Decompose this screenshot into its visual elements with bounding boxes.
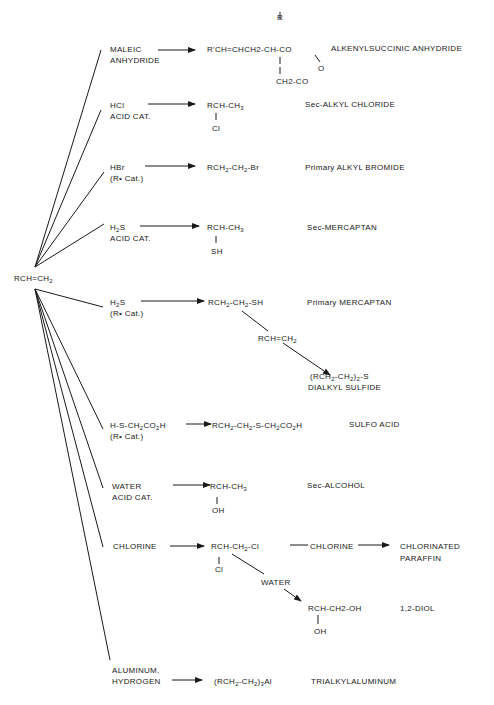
arrow-diol — [284, 589, 301, 601]
p: RCH-CH — [211, 542, 244, 551]
product-primary-mercaptan: RCH2-CH2-SH — [208, 297, 263, 311]
product-maleic-main: R'CH=CHCH2-CH-CO — [207, 44, 292, 55]
reaction-lines — [0, 0, 494, 705]
p: RCH — [208, 298, 226, 307]
product-maleic-o: O — [318, 63, 325, 74]
product-sulfo-acid: RCH2-CH2-S-CH2CO2H — [212, 420, 302, 434]
p: -Cl — [248, 542, 259, 551]
p: S — [120, 298, 126, 307]
p: -S — [360, 372, 369, 381]
name-diol: 1,2-DIOL — [400, 603, 435, 614]
name-chlorinated-1: CHLORINATED — [400, 541, 460, 552]
p: -CH — [234, 421, 249, 430]
p: -CH — [239, 677, 254, 686]
name-sec-mercaptan: Sec-MERCAPTAN — [307, 222, 377, 233]
reagent-hbr-2: (R• Cat.) — [110, 173, 144, 184]
branch-line-maleic — [35, 50, 101, 267]
p: H-S-CH — [110, 421, 140, 430]
product-hcl-sub: 3 — [240, 105, 244, 111]
name-dialkyl-sulfide: DIALKYL SULFIDE — [308, 382, 381, 393]
branch-line-hcl — [35, 110, 101, 267]
product-h2s-bottom: SH — [211, 246, 223, 257]
branch-line-hbr — [35, 172, 104, 267]
product-h2s-acid: RCH-CH3 — [207, 222, 244, 236]
name-sulfo-acid: SULFO ACID — [349, 419, 400, 430]
p: -CH — [229, 163, 244, 172]
p: RCH-CH — [210, 482, 243, 491]
center-label: RCH=CH — [14, 274, 49, 283]
branch-line-h2s-radical — [35, 289, 103, 307]
branch-line-sulfide-upper — [242, 311, 268, 331]
product-dichloride: RCH-CH2-Cl — [211, 541, 259, 555]
product-hbr: RCH2-CH2-Br — [207, 162, 259, 176]
p: 3 — [243, 486, 247, 492]
reagent-hcl-1: HCl — [110, 100, 124, 111]
product-dichloride-cl: Cl — [215, 564, 223, 575]
product-diol: RCH-CH2-OH — [308, 603, 362, 614]
p: RCH — [212, 421, 230, 430]
p: Al — [264, 677, 272, 686]
branch-line-h2s-acid — [35, 224, 104, 267]
reagent-aluminum-2: HYDROGEN — [112, 676, 161, 687]
product-hcl-main: RCH-CH — [207, 101, 240, 110]
p: 2 — [293, 338, 297, 344]
p: CO — [143, 421, 156, 430]
reagent-branch-olefin: RCH=CH2 — [258, 333, 297, 347]
p: -S-CH — [253, 421, 277, 430]
p: RCH-CH — [207, 223, 240, 232]
product-diol-oh: OH — [314, 626, 327, 637]
reagent-chlorine-branch: CHLORINE — [310, 541, 354, 552]
branch-line-diol-upper — [232, 554, 264, 574]
reagent-hcl-2: ACID CAT. — [110, 111, 151, 122]
p: -Br — [248, 163, 260, 172]
product-hcl: RCH-CH3 — [207, 100, 244, 114]
product-sec-alcohol: RCH-CH3 — [210, 481, 247, 495]
reagent-maleic-1: MALEIC — [110, 44, 142, 55]
name-trialkylaluminum: TRIALKYLALUMINUM — [311, 676, 396, 687]
reagent-hbr-1: HBr — [110, 162, 125, 173]
p: CO — [280, 421, 293, 430]
name-primary-alkyl-bromide: Primary ALKYL BROMIDE — [305, 162, 405, 173]
name-sec-alcohol: Sec-ALCOHOL — [307, 480, 365, 491]
reagent-chlorine: CHLORINE — [113, 541, 157, 552]
reagent-aluminum-1: ALUMINUM, — [112, 665, 160, 676]
name-sec-alkyl-chloride: Sec-ALKYL CHLORIDE — [305, 99, 395, 110]
p: (RCH — [310, 372, 331, 381]
p: H — [296, 421, 302, 430]
reagent-water-2: ACID CAT. — [112, 492, 153, 503]
p: S — [120, 223, 126, 232]
center-sub: 2 — [49, 278, 53, 284]
reagent-water-1: WATER — [112, 481, 142, 492]
p: H — [160, 421, 166, 430]
reagent-maleic-2: ANHYDRIDE — [110, 55, 160, 66]
product-hcl-bottom: Cl — [212, 123, 220, 134]
name-chlorinated-2: PARAFFIN — [400, 553, 441, 564]
name-alkenylsuccinic: ALKENYLSUCCINIC ANHYDRIDE — [331, 43, 462, 54]
branch-line-chlorine — [35, 289, 103, 547]
center-olefin: RCH=CH2 — [14, 273, 53, 287]
reagent-water-branch: WATER — [261, 577, 291, 588]
p: -SH — [249, 298, 264, 307]
reagent-h2s-radical-2: (R• Cat.) — [110, 308, 144, 319]
p: RCH — [207, 163, 225, 172]
reagent-thioglycolic-2: (R• Cat.) — [110, 431, 144, 442]
product-maleic-top: R — [277, 12, 283, 23]
branch-line-sulfo — [35, 289, 103, 429]
reagent-h2s-acid-2: ACID CAT. — [110, 233, 151, 244]
p: 3 — [240, 227, 244, 233]
name-primary-mercaptan: Primary MERCAPTAN — [307, 297, 392, 308]
p: -CH — [230, 298, 245, 307]
product-sec-alcohol-oh: OH — [212, 505, 225, 516]
p: RCH=CH — [258, 334, 293, 343]
p: (RCH — [214, 677, 235, 686]
product-trialkylaluminum: (RCH2-CH2)3Al — [214, 676, 272, 690]
bond-maleic-o — [315, 55, 320, 62]
p: -CH — [335, 372, 350, 381]
product-maleic-bottom: CH2-CO — [276, 76, 308, 87]
